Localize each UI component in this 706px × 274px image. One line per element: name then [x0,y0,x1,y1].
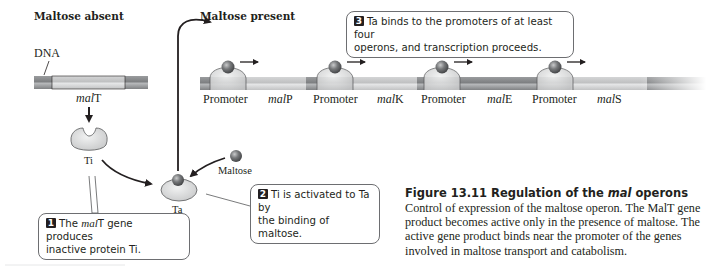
malT-label: malT [76,91,101,106]
callout1-pointer [89,176,98,213]
maltose-molecule-icon [230,150,242,162]
step-number-badge: 2 [258,189,268,199]
bound-maltose-icon [172,174,184,186]
promoter-label-1: Promoter [203,92,248,107]
gene-label-malP: malP [268,92,293,107]
malT-prefix: mal [76,91,94,105]
callout-step-1: 1The malT gene produces inactive protein… [38,213,190,260]
dna-malT-strand [34,61,148,89]
caption-body: Control of expression of the maltose ope… [405,201,701,258]
panel-title-maltose-present: Maltose present [200,10,295,22]
maltose-label: Maltose [218,165,252,176]
gene-label-malE: malE [487,92,512,107]
callout-step-3: 3Ta binds to the promoters of at least f… [346,11,574,58]
promoter-label-3: Promoter [421,92,466,107]
caption-title: Figure 13.11 Regulation of the mal opero… [405,186,701,200]
step-number-badge: 1 [46,218,56,228]
ti-protein-shape [71,128,107,150]
malT-suffix: T [94,91,101,105]
gene-label-malK: malK [377,92,404,107]
panel-title-maltose-absent: Maltose absent [34,10,124,22]
gene-label-malS: malS [597,92,622,107]
promoter-label-2: Promoter [313,92,358,107]
figure-caption: Figure 13.11 Regulation of the mal opero… [405,186,701,258]
step-number-badge: 3 [354,16,364,26]
dna-label: DNA [34,46,60,61]
callout-step-2: 2Ti is activated to Ta by the binding of… [250,184,380,244]
activation-arrow [102,160,151,184]
ti-label: Ti [84,155,93,166]
promoter-label-4: Promoter [532,92,577,107]
